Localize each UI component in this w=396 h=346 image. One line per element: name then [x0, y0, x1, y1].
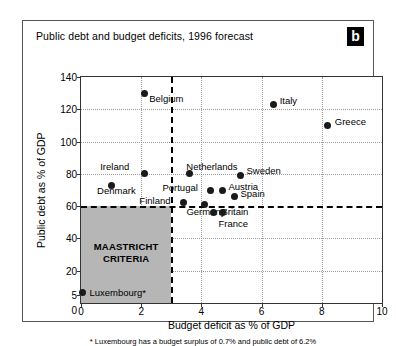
y-axis-tick-mark — [77, 109, 81, 110]
data-point — [237, 172, 244, 179]
y-axis-tick-label: 20 — [66, 265, 77, 276]
data-point-label: Ireland — [100, 162, 129, 172]
x-axis-tick-label: 4 — [199, 306, 205, 317]
data-point-label: Finland — [139, 196, 170, 206]
gridline-horizontal — [81, 142, 382, 143]
x-axis-tick-label: 10 — [376, 306, 387, 317]
data-point — [207, 187, 214, 194]
x-axis-label: Budget deficit as % of GDP — [80, 319, 383, 331]
x-axis-tick-mark — [201, 303, 202, 307]
data-point — [219, 187, 226, 194]
x-axis-tick-mark — [81, 303, 82, 307]
y-axis-tick-label: 0 — [71, 305, 77, 316]
data-point — [219, 209, 226, 216]
maastricht-criteria-label: MAASTRICHT CRITERIA — [81, 241, 171, 265]
data-point-label: Belgium — [149, 94, 183, 104]
gridline-horizontal — [81, 174, 382, 175]
y-axis-tick-label: 60 — [66, 201, 77, 212]
data-point-label: Denmark — [97, 186, 136, 196]
y-axis-tick-label: 100 — [60, 136, 77, 147]
gridline-vertical — [201, 77, 202, 303]
x-axis-tick-label: 0 — [78, 306, 84, 317]
gridline-vertical — [322, 77, 323, 303]
data-point-label: France — [218, 219, 248, 229]
data-point-label: Greece — [335, 117, 366, 127]
maastricht-line-2: CRITERIA — [103, 253, 149, 264]
y-axis-tick-label: 40 — [66, 233, 77, 244]
y-axis-tick-mark — [77, 77, 81, 78]
chart-footnote: * Luxembourg has a budget surplus of 0.7… — [43, 337, 363, 346]
chart-figure: Public debt and budget deficits, 1996 fo… — [22, 20, 374, 322]
data-point — [210, 209, 217, 216]
x-axis-tick-label: 2 — [138, 306, 144, 317]
y-axis-tick-mark — [77, 238, 81, 239]
y-axis-tick-label: 120 — [60, 104, 77, 115]
x-axis-tick-label: 8 — [319, 306, 325, 317]
data-point — [141, 170, 148, 177]
x-axis-tick-mark — [262, 303, 263, 307]
maastricht-line-1: MAASTRICHT — [94, 241, 159, 252]
y-axis-tick-label: 80 — [66, 168, 77, 179]
x-axis-tick-mark — [382, 303, 383, 307]
y-axis-tick-mark — [77, 295, 81, 296]
panel-badge: b — [347, 27, 364, 46]
data-point — [231, 193, 238, 200]
x-axis-tick-mark — [322, 303, 323, 307]
chart-title: Public debt and budget deficits, 1996 fo… — [36, 30, 253, 42]
x-axis-tick-mark — [141, 303, 142, 307]
y-axis-tick-mark — [77, 271, 81, 272]
data-point-label: Luxembourg* — [90, 288, 147, 298]
plot-area: MAASTRICHT CRITERIA BelgiumItalyGreeceIr… — [80, 76, 383, 304]
y-axis-tick-label: 140 — [60, 72, 77, 83]
data-point-label: Netherlands — [186, 162, 237, 172]
data-point — [141, 90, 148, 97]
gridline-horizontal — [81, 109, 382, 110]
y-axis-tick-mark — [77, 142, 81, 143]
data-point — [324, 122, 331, 129]
x-axis-tick-label: 6 — [259, 306, 265, 317]
data-point — [270, 101, 277, 108]
data-point-label: Sweden — [247, 166, 281, 176]
data-point-label: Italy — [280, 96, 297, 106]
y-axis-tick-mark — [77, 206, 81, 207]
data-point-label: Spain — [241, 189, 265, 199]
y-axis-label: Public debt as % of GDP — [34, 76, 48, 304]
data-point-label: Portugal — [162, 183, 197, 193]
y-axis-tick-mark — [77, 174, 81, 175]
